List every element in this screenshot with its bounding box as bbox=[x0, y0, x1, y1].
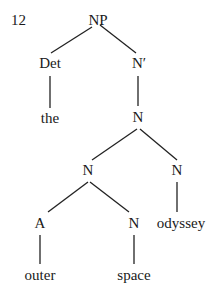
tree-edges bbox=[0, 0, 217, 294]
tree-node-n4: N bbox=[129, 215, 140, 231]
tree-node-odyssey: odyssey bbox=[157, 215, 205, 231]
tree-edge bbox=[140, 129, 177, 160]
tree-node-space: space bbox=[117, 267, 150, 283]
tree-node-n2: N bbox=[83, 162, 94, 178]
tree-node-np: NP bbox=[88, 12, 107, 28]
tree-node-outer: outer bbox=[25, 267, 56, 283]
tree-node-a: A bbox=[35, 215, 46, 231]
tree-node-nbar: N′ bbox=[132, 55, 146, 71]
tree-edge bbox=[90, 182, 129, 212]
tree-edge bbox=[92, 129, 137, 160]
tree-edge bbox=[100, 25, 136, 53]
tree-node-n1: N bbox=[133, 109, 144, 125]
tree-edge bbox=[51, 27, 92, 53]
tree-node-det: Det bbox=[39, 55, 61, 71]
tree-edge bbox=[48, 182, 88, 212]
tree-node-n3: N bbox=[172, 162, 183, 178]
tree-node-the: the bbox=[41, 110, 59, 126]
